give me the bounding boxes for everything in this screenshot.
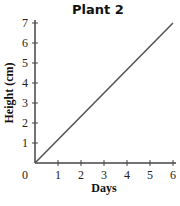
x-tick-label: 5: [147, 168, 153, 182]
y-axis-label: Height (cm): [2, 63, 16, 124]
y-tick-label: 7: [22, 16, 28, 30]
x-tick-label: 1: [55, 168, 61, 182]
data-line: [35, 23, 173, 163]
x-axis-label: Days: [91, 181, 117, 195]
x-tick-label: 2: [78, 168, 84, 182]
y-tick-label: 4: [22, 76, 28, 90]
y-tick-label: 3: [22, 96, 28, 110]
x-tick-label: 3: [101, 168, 107, 182]
y-tick-label: 5: [22, 56, 28, 70]
x-tick-label: 0: [22, 168, 28, 182]
x-tick-label: 6: [170, 168, 176, 182]
y-tick-label: 2: [22, 116, 28, 130]
line-chart: 1234567 0123456 Days Height (cm): [0, 0, 180, 206]
y-tick-label: 1: [22, 136, 28, 150]
x-tick-label: 4: [124, 168, 130, 182]
y-tick-label: 6: [22, 36, 28, 50]
